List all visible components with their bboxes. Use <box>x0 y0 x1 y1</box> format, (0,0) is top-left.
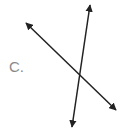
line-diagonal <box>26 23 116 110</box>
intersecting-lines-diagram <box>0 0 127 133</box>
line-steep <box>72 5 90 127</box>
